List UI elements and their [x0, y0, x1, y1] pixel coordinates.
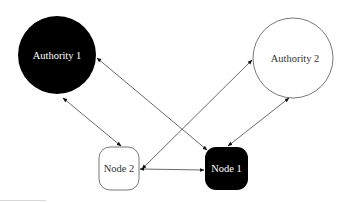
node-2-label: Node 2 — [104, 163, 135, 174]
divider — [0, 200, 46, 201]
edge-authority2-node1 — [228, 98, 289, 146]
node-1: Node 1 — [205, 147, 248, 190]
node-2: Node 2 — [99, 147, 139, 190]
edge-authority1-node2 — [63, 98, 121, 146]
authority-2-node: Authority 2 — [253, 18, 333, 98]
authority-1-label: Authority 1 — [33, 50, 82, 61]
authority-1-node: Authority 1 — [18, 16, 96, 94]
network-diagram: Authority 1 Authority 2 Node 2 Node 1 — [0, 0, 347, 203]
node-1-label: Node 1 — [211, 163, 242, 174]
authority-2-label: Authority 2 — [271, 53, 320, 64]
edges — [63, 58, 289, 170]
edge-authority1-node1 — [97, 58, 207, 150]
edge-node2-node1 — [140, 169, 204, 170]
